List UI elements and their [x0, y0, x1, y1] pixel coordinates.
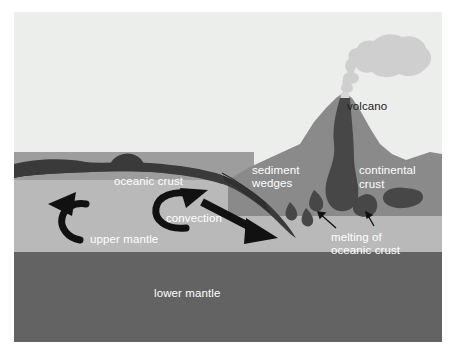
lower-mantle-layer [14, 252, 442, 342]
subduction-diagram: volcano sediment wedges continental crus… [14, 12, 442, 342]
diagram-canvas [14, 12, 442, 342]
